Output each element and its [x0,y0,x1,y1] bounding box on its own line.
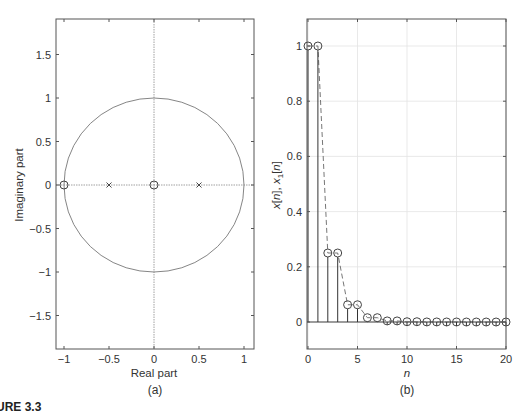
x-tick-label: −1 [58,353,71,365]
y-tick-label: 0 [296,316,302,328]
y-tick-label: 0 [45,179,51,191]
x-tick-label: 10 [401,353,413,365]
x-tick-label: 5 [354,353,360,365]
panel-label-b: (b) [400,383,415,397]
stem-point [344,301,352,322]
y-tick-label: −0.5 [29,223,51,235]
y-tick-label: −1 [38,266,51,278]
y-axis-label: Imaginary part [13,147,25,221]
y-tick-label: −1.5 [29,310,51,322]
x-tick-label: 0 [151,353,157,365]
stem-point [324,249,332,322]
y-tick-label: 0.4 [287,206,302,218]
stem-plot: 0510152000.20.40.60.81nx[n], x1[n](b) [270,19,512,397]
stem-point [314,42,322,322]
x-tick-label: 0 [305,353,311,365]
y-tick-label: 1 [296,40,302,52]
y-tick-label: 1.5 [36,49,51,61]
y-tick-label: 1 [45,92,51,104]
x-axis-label: n [404,367,410,379]
y-axis-label: x[n], x1[n] [270,161,285,210]
x-tick-label: 0.5 [191,353,206,365]
x-tick-label: −0.5 [98,353,120,365]
x-tick-label: 15 [450,353,462,365]
x-tick-label: 1 [241,353,247,365]
y-tick-label: 0.6 [287,150,302,162]
pole-zero-plot: −1−0.500.51−1.5−1−0.500.511.5Real partIm… [13,19,254,397]
x-axis-label: Real part [131,367,178,379]
y-tick-label: 0.2 [287,261,302,273]
axes-frame-b [307,19,506,349]
y-tick-label: 0.5 [36,136,51,148]
stem-point [334,249,342,322]
figure-caption: URE 3.3 [0,400,41,414]
panel-label-a: (a) [148,383,163,397]
axes-frame-a [56,19,254,349]
x-tick-label: 20 [500,353,512,365]
stem-point [304,42,312,322]
y-tick-label: 0.8 [287,95,302,107]
